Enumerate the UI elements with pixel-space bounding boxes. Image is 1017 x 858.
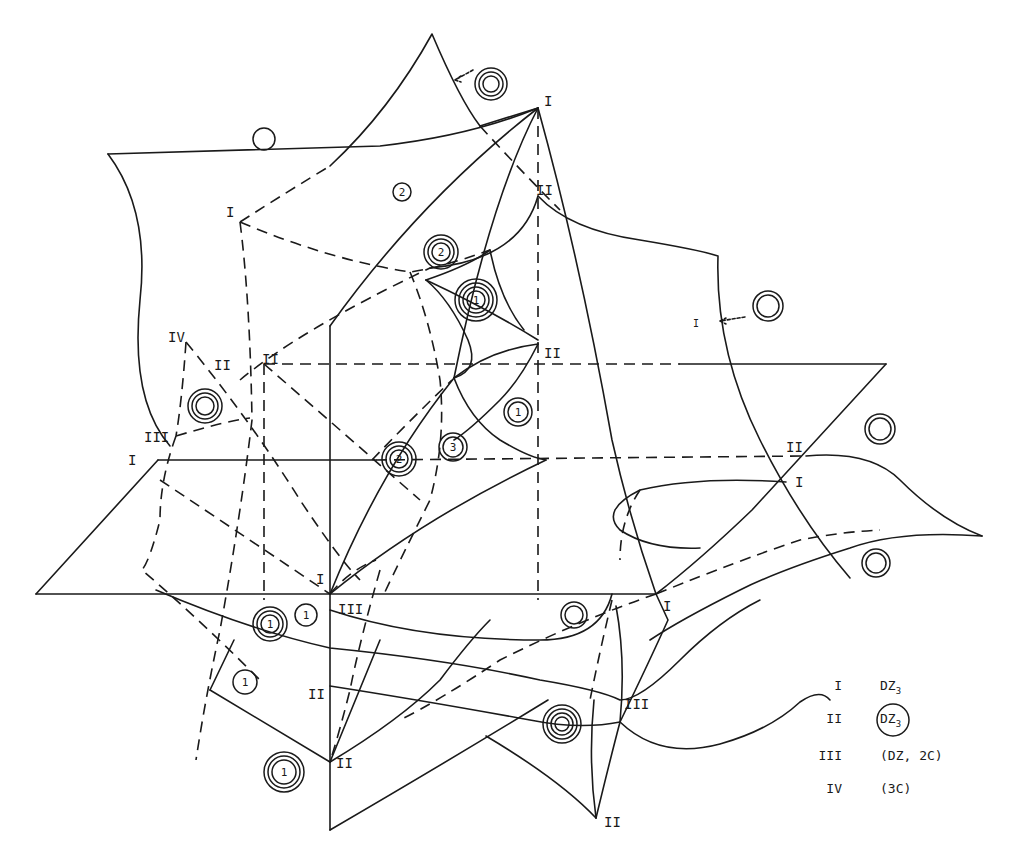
legend-value: (3C) bbox=[880, 781, 911, 796]
dash-right-I-curve bbox=[656, 530, 880, 594]
bottom-spike-mid bbox=[591, 700, 596, 818]
region-marker-m1 bbox=[475, 68, 507, 100]
point-label-left-IV: IV bbox=[168, 329, 185, 345]
bifurcation-diagram: 2 2 1 1 bbox=[0, 0, 1017, 858]
plane-right-edge bbox=[656, 364, 886, 594]
point-label-upper-right-II: II bbox=[536, 182, 553, 198]
lower-fan-3 bbox=[330, 620, 490, 762]
region-number: 1 bbox=[267, 618, 274, 631]
point-label-left-II-b: II bbox=[262, 351, 279, 367]
point-label-left-III: III bbox=[144, 429, 169, 445]
point-label-left-II-a: II bbox=[214, 357, 231, 373]
region-marker-m12 bbox=[862, 549, 890, 577]
dash-left-cross bbox=[160, 480, 330, 594]
region-marker-m9: 3 bbox=[439, 433, 467, 461]
legend: I DZ3 II DZ3 III (DZ, 2C) IV (3C) bbox=[819, 678, 943, 796]
plane-left-edge bbox=[36, 460, 158, 594]
right-wing-upper bbox=[806, 455, 982, 536]
arrow-icon bbox=[455, 70, 473, 82]
cusp-lower-curve bbox=[454, 378, 546, 460]
dash-III-loop bbox=[142, 436, 260, 680]
region-marker-m5: 1 bbox=[455, 279, 497, 321]
region-number: 2 bbox=[438, 246, 445, 259]
region-number: 3 bbox=[450, 441, 457, 454]
region-marker-m2 bbox=[253, 128, 275, 150]
point-labels: I I II II I IV II II III I II I I III I … bbox=[128, 93, 803, 830]
cusp-right-slope bbox=[454, 344, 538, 440]
point-label-mid-III: III bbox=[338, 601, 363, 617]
legend-value: DZ3 bbox=[880, 711, 901, 729]
region-markers: 2 2 1 1 bbox=[188, 68, 895, 792]
point-label-bottom-right-II: II bbox=[604, 814, 621, 830]
region-marker-m10: 2 bbox=[382, 442, 416, 476]
legend-key: II bbox=[826, 711, 842, 726]
point-label-bottom-II: II bbox=[336, 755, 353, 771]
bottom-spike-right bbox=[596, 606, 622, 818]
top-spike-right bbox=[480, 108, 538, 126]
region-number: 2 bbox=[399, 186, 406, 199]
region-marker-m6 bbox=[753, 291, 783, 321]
lower-sheet-upper-loop bbox=[330, 594, 612, 640]
legend-item-I: I DZ3 bbox=[834, 678, 901, 696]
point-label-mid-I: I bbox=[316, 571, 324, 587]
dash-IV-diagonal bbox=[186, 342, 360, 580]
legend-key: I bbox=[834, 678, 842, 693]
point-label-lower-right-I: I bbox=[663, 598, 671, 614]
right-wing-lower bbox=[650, 535, 982, 641]
point-label-left-I: I bbox=[128, 452, 136, 468]
region-marker-m7 bbox=[188, 389, 222, 423]
point-label-right-II: II bbox=[786, 439, 803, 455]
legend-value: DZ3 bbox=[880, 678, 901, 696]
arrow-icon bbox=[720, 317, 745, 324]
region-marker-m13 bbox=[561, 602, 587, 628]
dash-cusp-left bbox=[384, 272, 442, 594]
legend-item-IV: IV (3C) bbox=[826, 781, 911, 796]
lower-fan-2 bbox=[330, 378, 454, 594]
top-sheet-left-edge bbox=[108, 154, 170, 446]
diagram-canvas: 2 2 1 1 bbox=[0, 0, 1017, 858]
dash-lower-vertical bbox=[330, 570, 380, 762]
legend-key: IV bbox=[826, 781, 842, 796]
bottom-triangle bbox=[330, 700, 548, 830]
bottom-spike-left bbox=[486, 736, 596, 818]
region-marker-m3: 2 bbox=[393, 183, 411, 201]
point-label-center-II: II bbox=[544, 345, 561, 361]
region-number: 1 bbox=[242, 676, 249, 689]
point-label-top-I: I bbox=[544, 93, 552, 109]
region-marker-m18: 1 bbox=[264, 752, 304, 792]
region-marker-m16: 1 bbox=[233, 670, 257, 694]
region-marker-m8: 1 bbox=[504, 398, 532, 426]
curve-II-upper bbox=[538, 196, 850, 578]
point-label-lower-II: II bbox=[308, 686, 325, 702]
legend-item-II: II DZ3 bbox=[826, 704, 909, 736]
point-label-upper-left-I: I bbox=[226, 204, 234, 220]
cusp-lower-arc bbox=[454, 344, 538, 378]
lower-fan-4 bbox=[330, 640, 380, 762]
region-number: 2 bbox=[396, 453, 403, 466]
top-sheet-top-edge bbox=[108, 108, 538, 154]
dash-IV-down bbox=[176, 342, 186, 436]
legend-item-III: III (DZ, 2C) bbox=[819, 748, 943, 763]
region-marker-m4: 2 bbox=[424, 235, 458, 269]
region-number: 1 bbox=[303, 609, 310, 622]
lower-fan-1 bbox=[330, 460, 546, 594]
point-label-lower-right-III: III bbox=[624, 696, 649, 712]
region-number: 1 bbox=[281, 766, 288, 779]
point-label-right-I: I bbox=[693, 318, 699, 329]
dash-I-to-top bbox=[240, 166, 330, 222]
legend-value: (DZ, 2C) bbox=[880, 748, 943, 763]
lower-wing-bottom bbox=[210, 640, 234, 690]
region-marker-m15: 1 bbox=[295, 604, 317, 626]
dashed-edges bbox=[142, 108, 880, 762]
region-number: 1 bbox=[515, 406, 522, 419]
marker-arrows bbox=[455, 70, 745, 324]
region-number: 1 bbox=[473, 294, 480, 307]
dash-plane-mid bbox=[376, 456, 806, 460]
lower-III-curve bbox=[620, 694, 830, 748]
ray-top-to-left bbox=[330, 108, 538, 326]
region-marker-m11 bbox=[865, 414, 895, 444]
curve-II-to-cusp bbox=[430, 196, 538, 268]
legend-key: III bbox=[819, 748, 842, 763]
point-label-right-I-lower: I bbox=[795, 474, 803, 490]
region-marker-m14: 1 bbox=[253, 607, 287, 641]
